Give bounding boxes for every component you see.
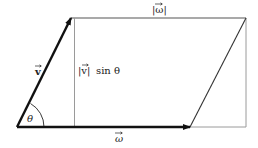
parallelogram-diagram: v θ |v| sin θ |ω| ω bbox=[0, 0, 258, 148]
omega-label: ω bbox=[115, 132, 123, 144]
svg-text:|ω|: |ω| bbox=[152, 4, 167, 16]
v-label: v bbox=[34, 65, 42, 77]
svg-text:ω: ω bbox=[115, 133, 123, 144]
v-vector-arrow bbox=[17, 18, 71, 127]
height-label: |v| sin θ bbox=[78, 64, 120, 77]
svg-text:sin θ: sin θ bbox=[96, 65, 120, 76]
svg-text:v: v bbox=[34, 66, 42, 77]
parallelogram-right-side bbox=[190, 18, 246, 127]
angle-label: θ bbox=[27, 113, 33, 124]
svg-text:|v|: |v| bbox=[78, 65, 90, 77]
omega-magnitude-label: |ω| bbox=[152, 3, 167, 16]
